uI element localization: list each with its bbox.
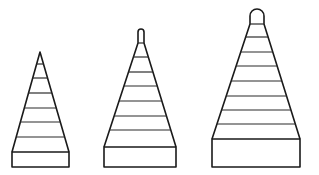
background [0, 0, 319, 175]
stacked-cone-diagram [0, 0, 319, 175]
